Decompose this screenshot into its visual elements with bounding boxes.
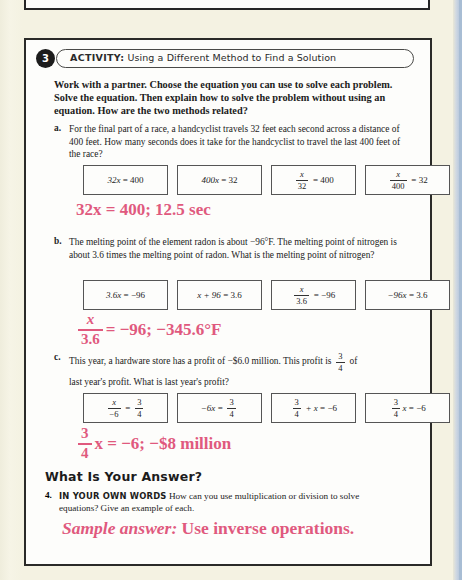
fraction-numerator: 3 bbox=[78, 426, 92, 442]
choice-value: −6 bbox=[416, 403, 426, 413]
fraction-denominator: 4 bbox=[293, 408, 301, 419]
activity-box: 3 ACTIVITY: Using a Different Method to … bbox=[24, 38, 432, 566]
choice-value: 32 bbox=[229, 175, 238, 185]
choice-box[interactable]: x + 96 = 3.6 bbox=[177, 280, 262, 310]
choice-box[interactable]: 400x = 32 bbox=[177, 165, 262, 195]
choice-operator: = bbox=[221, 175, 226, 185]
fraction-numerator: 3 bbox=[336, 352, 344, 361]
sample-answer: Sample answer: Use inverse operations. bbox=[62, 518, 354, 539]
fraction-numerator: 3 bbox=[227, 398, 235, 407]
choice-box[interactable]: 3.6x = −96 bbox=[83, 280, 168, 310]
choice-operator: = bbox=[123, 175, 128, 185]
choice-value: 400 bbox=[320, 175, 334, 185]
activity-header: 3 ACTIVITY: Using a Different Method to … bbox=[36, 49, 414, 68]
problem-b-label: b. bbox=[54, 236, 67, 246]
choice-variable: x bbox=[403, 403, 407, 413]
fraction-numerator: 3 bbox=[392, 398, 400, 407]
question-4-caps-lead: IN YOUR OWN WORDS bbox=[59, 491, 167, 501]
choice-value: −6 bbox=[327, 403, 337, 413]
answer-c-fraction: 3 4 bbox=[78, 426, 92, 462]
choice-box[interactable]: −96x = 3.6 bbox=[365, 280, 450, 310]
what-is-your-answer-heading: What Is Your Answer? bbox=[45, 469, 202, 484]
problem-a: a. For the final part of a race, a handc… bbox=[54, 123, 412, 161]
fraction: x −6 bbox=[108, 398, 121, 418]
answer-a-text: 32x = 400; 12.5 sec bbox=[76, 200, 211, 219]
fraction: x 32 bbox=[296, 170, 309, 190]
choice-value: −96 bbox=[131, 290, 145, 300]
previous-activity-box-partial bbox=[24, 0, 430, 10]
choice-operator: = bbox=[314, 290, 319, 300]
choice-expression: −6x bbox=[201, 403, 216, 413]
problem-c: c. This year, a hardware store has a pro… bbox=[54, 352, 412, 389]
activity-intro-paragraph: Work with a partner. Choose the equation… bbox=[54, 78, 404, 118]
problem-a-label: a. bbox=[54, 123, 67, 133]
choice-operator: = bbox=[125, 403, 130, 413]
fraction-denominator: 3.6 bbox=[294, 295, 309, 306]
problem-c-text: This year, a hardware store has a profit… bbox=[69, 352, 412, 389]
answer-b-rest: = −96; −345.6°F bbox=[106, 320, 222, 340]
fraction: x 400 bbox=[390, 170, 407, 190]
choice-box[interactable]: 32x = 400 bbox=[83, 165, 168, 195]
choice-value: 3.6 bbox=[230, 290, 241, 300]
fraction-numerator: 3 bbox=[135, 398, 143, 407]
sample-answer-text: Use inverse operations. bbox=[182, 518, 355, 538]
fraction-denominator: 4 bbox=[135, 408, 143, 419]
activity-title-text: Using a Different Method to Find a Solut… bbox=[127, 52, 336, 63]
activity-title: ACTIVITY: Using a Different Method to Fi… bbox=[70, 52, 336, 63]
choice-box[interactable]: x 32 = 400 bbox=[271, 165, 356, 195]
answer-b-fraction: x 3.6 bbox=[78, 312, 103, 348]
fraction: 3 4 bbox=[227, 398, 235, 418]
fraction-numerator: 3 bbox=[293, 398, 301, 407]
fraction: 3 4 bbox=[392, 398, 400, 418]
fraction: 3 4 bbox=[293, 398, 301, 418]
choice-value: 32 bbox=[419, 175, 428, 185]
choice-operator: = bbox=[313, 175, 318, 185]
choice-expression: 3.6x bbox=[106, 290, 121, 300]
choice-operator: = bbox=[320, 403, 325, 413]
problem-c-inline-fraction: 3 4 bbox=[336, 352, 344, 372]
choice-expression: −96x bbox=[388, 290, 407, 300]
choice-operator: = bbox=[218, 403, 223, 413]
fraction-denominator: 4 bbox=[227, 408, 235, 419]
question-4-number: 4. bbox=[45, 490, 52, 500]
choice-operator: = bbox=[411, 175, 416, 185]
sample-answer-label: Sample answer: bbox=[62, 518, 177, 538]
activity-label: ACTIVITY: bbox=[70, 52, 124, 63]
choice-box[interactable]: −6x = 3 4 bbox=[177, 393, 262, 423]
problem-c-text-mid: of bbox=[349, 356, 357, 366]
choice-operator: = bbox=[409, 290, 414, 300]
choice-box[interactable]: x 400 = 32 bbox=[365, 165, 450, 195]
fraction-denominator: 400 bbox=[390, 180, 407, 191]
fraction-denominator: 32 bbox=[296, 180, 309, 191]
fraction-numerator: x bbox=[298, 285, 306, 294]
choice-value: 3.6 bbox=[416, 290, 427, 300]
choice-expression: + x bbox=[306, 403, 318, 413]
answer-b: x 3.6 = −96; −345.6°F bbox=[78, 312, 221, 348]
problem-a-text: For the final part of a race, a handcycl… bbox=[69, 123, 412, 161]
choice-value: 400 bbox=[130, 175, 144, 185]
choice-box[interactable]: x 3.6 = −96 bbox=[271, 280, 356, 310]
fraction-denominator: 4 bbox=[336, 362, 344, 373]
choice-operator: = bbox=[409, 403, 414, 413]
fraction-denominator: 3.6 bbox=[78, 329, 103, 348]
choice-value: −96 bbox=[321, 290, 335, 300]
answer-a: 32x = 400; 12.5 sec bbox=[76, 200, 211, 220]
question-4-text: IN YOUR OWN WORDS How can you use multip… bbox=[59, 490, 385, 514]
problem-b: b. The melting point of the element rado… bbox=[54, 236, 412, 261]
fraction-denominator: −6 bbox=[108, 408, 121, 419]
problem-b-text: The melting point of the element radon i… bbox=[69, 236, 412, 261]
choice-box[interactable]: 3 4 + x = −6 bbox=[271, 393, 356, 423]
problem-b-choices: 3.6x = −96 x + 96 = 3.6 x 3.6 = −96 −96x… bbox=[83, 280, 450, 310]
choice-box[interactable]: 3 4 x = −6 bbox=[365, 393, 450, 423]
answer-c-rest: x = −6; −$8 million bbox=[95, 434, 232, 454]
choice-box[interactable]: x −6 = 3 4 bbox=[83, 393, 168, 423]
fraction-numerator: x bbox=[298, 170, 306, 179]
answer-c: 3 4 x = −6; −$8 million bbox=[78, 426, 231, 462]
problem-c-choices: x −6 = 3 4 −6x = 3 4 3 4 + x = −6 3 4 x … bbox=[83, 393, 450, 423]
choice-operator: = bbox=[223, 290, 228, 300]
fraction: x 3.6 bbox=[294, 285, 309, 305]
question-4: 4. IN YOUR OWN WORDS How can you use mul… bbox=[45, 490, 385, 514]
problem-c-label: c. bbox=[54, 352, 67, 362]
choice-expression: 32x bbox=[107, 175, 120, 185]
problem-a-choices: 32x = 400 400x = 32 x 32 = 400 x 400 = 3… bbox=[83, 165, 450, 195]
